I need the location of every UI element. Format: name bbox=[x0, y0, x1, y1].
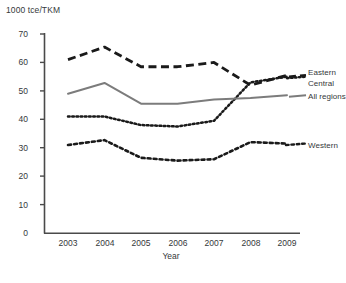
legend-label-central: Central bbox=[308, 79, 334, 88]
data-series-layer bbox=[68, 47, 287, 161]
legend-label-all-regions: All regions bbox=[308, 92, 346, 101]
legend-swatches bbox=[286, 75, 306, 145]
series-line-western bbox=[68, 140, 287, 160]
legend-label-western: Western bbox=[308, 141, 338, 150]
x-axis-title: Year bbox=[0, 251, 342, 261]
axis-spines bbox=[44, 33, 300, 234]
series-line-eastern bbox=[68, 47, 287, 85]
series-line-all-regions bbox=[68, 83, 287, 104]
legend-label-eastern: Eastern bbox=[308, 68, 336, 77]
